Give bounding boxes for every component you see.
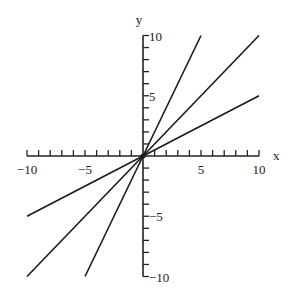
x-axis-label: x bbox=[273, 148, 280, 163]
x-tick-label: −10 bbox=[17, 162, 37, 177]
origin-point bbox=[141, 154, 146, 159]
y-tick-label: −5 bbox=[149, 209, 163, 224]
y-tick-label: 5 bbox=[149, 89, 156, 104]
y-axis-label: y bbox=[136, 12, 143, 27]
line-chart: −10−5510105−5−10xy bbox=[0, 0, 290, 294]
x-tick-label: 5 bbox=[198, 162, 205, 177]
x-tick-label: 10 bbox=[253, 162, 266, 177]
chart: −10−5510105−5−10xy bbox=[0, 0, 290, 294]
y-tick-label: 10 bbox=[149, 29, 162, 44]
x-tick-label: −5 bbox=[78, 162, 92, 177]
y-tick-label: −10 bbox=[149, 270, 169, 285]
